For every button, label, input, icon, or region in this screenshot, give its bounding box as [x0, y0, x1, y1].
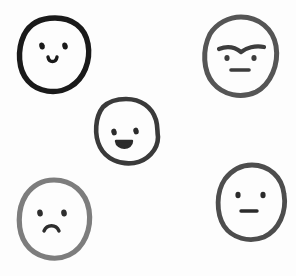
face-bottom-left: [19, 180, 89, 258]
face-outline-top-right: [205, 17, 277, 95]
face-top-right: [205, 17, 277, 95]
eye-right-top-right: [251, 55, 256, 61]
eye-left-center: [111, 128, 118, 136]
eye-left-top-left: [39, 42, 46, 50]
mouth-frown-bottom-left: [44, 226, 59, 231]
face-outline-top-left: [19, 18, 88, 92]
face-outline-center: [96, 99, 158, 163]
face-outline-bottom-left: [19, 180, 89, 258]
eye-right-center: [133, 127, 140, 135]
eyebrow-angry-top-right: [219, 46, 264, 52]
face-outline-bottom-right: [218, 165, 285, 240]
doodle-faces-image: Five hand-drawn doodle faces Sketchbook-…: [0, 0, 296, 276]
face-center: [96, 99, 158, 163]
face-top-left: [19, 18, 88, 92]
face-bottom-right: [218, 165, 285, 240]
mouth-open-smile-center: [116, 141, 132, 148]
eye-left-bottom-left: [37, 209, 44, 217]
eye-left-bottom-right: [235, 192, 240, 198]
eye-right-top-left: [62, 42, 69, 50]
eye-right-bottom-right: [260, 192, 265, 198]
eye-left-top-right: [224, 55, 229, 61]
mouth-smile-top-left: [48, 57, 57, 62]
sketch-canvas: [0, 0, 296, 276]
eye-right-bottom-left: [61, 209, 68, 217]
